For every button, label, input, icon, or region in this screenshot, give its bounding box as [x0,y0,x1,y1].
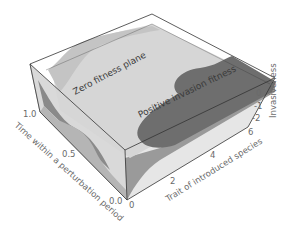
z-tick-0: 0 [256,88,261,98]
z-tick-neg2: -2 [252,113,260,123]
y-tick-1.0: 1.0 [23,109,37,119]
x-tick-4: 4 [210,150,215,160]
figure-3d-surface: Zero fitness plane Positive invasion fit… [0,0,296,239]
x-tick-0: 0 [129,200,134,210]
z-axis-label: Invasiveness [268,63,278,118]
y-tick-0.5: 0.5 [62,149,76,159]
x-tick-6: 6 [248,127,253,137]
x-tick-2: 2 [170,176,175,186]
z-tick-neg1: -1 [254,101,262,111]
